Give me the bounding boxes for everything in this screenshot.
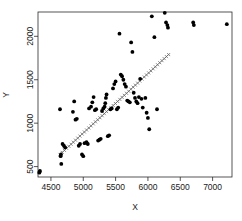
data-point xyxy=(150,14,154,18)
data-point xyxy=(103,101,107,105)
x-axis-title: X xyxy=(132,202,138,212)
data-point xyxy=(99,137,103,141)
data-point xyxy=(192,23,196,27)
data-point xyxy=(133,96,137,100)
data-point xyxy=(116,106,120,110)
y-tick-label: 1500 xyxy=(25,70,35,89)
x-tick-label: 6000 xyxy=(138,182,157,192)
data-point xyxy=(94,107,98,111)
x-tick-label: 5500 xyxy=(106,182,125,192)
plot-canvas: 450050005500600065007000500100015002000 … xyxy=(0,0,242,221)
data-point xyxy=(118,32,122,36)
data-point xyxy=(120,74,124,78)
data-point xyxy=(132,91,136,95)
data-point xyxy=(105,93,109,97)
fit-line-group xyxy=(58,53,170,156)
data-point xyxy=(146,116,150,120)
data-point xyxy=(92,95,96,99)
data-point xyxy=(107,133,111,137)
data-point xyxy=(145,111,149,115)
data-point xyxy=(163,11,167,15)
y-axis-title: Y xyxy=(1,92,11,98)
fit-line-x-marker xyxy=(167,53,170,56)
data-point xyxy=(103,105,107,109)
data-point xyxy=(136,101,140,105)
data-point xyxy=(78,142,82,146)
data-point xyxy=(155,107,159,111)
data-point xyxy=(104,96,108,100)
data-point xyxy=(225,22,229,26)
data-point xyxy=(72,100,76,104)
data-point xyxy=(111,87,115,91)
data-point xyxy=(59,162,63,166)
data-point xyxy=(89,105,93,109)
tick-labels-group: 450050005500600065007000500100015002000 xyxy=(25,27,222,192)
data-point xyxy=(131,50,135,54)
x-tick-label: 6500 xyxy=(171,182,190,192)
axes-group xyxy=(38,12,232,177)
x-tick-label: 5000 xyxy=(74,182,93,192)
plot-frame xyxy=(38,12,232,177)
data-point xyxy=(128,100,132,104)
data-point xyxy=(86,142,90,146)
data-point xyxy=(38,169,42,173)
data-point xyxy=(121,78,125,82)
data-point xyxy=(90,100,94,104)
y-tick-label: 500 xyxy=(25,159,35,173)
data-point xyxy=(124,85,128,89)
x-tick-label: 4500 xyxy=(41,182,60,192)
data-point xyxy=(71,110,75,114)
data-point xyxy=(143,96,147,100)
scatter-plot-figure: 450050005500600065007000500100015002000 … xyxy=(0,0,242,221)
data-point xyxy=(114,80,118,84)
data-point xyxy=(63,146,67,150)
data-point xyxy=(138,77,142,81)
x-tick-label: 7000 xyxy=(203,182,222,192)
data-point xyxy=(58,107,62,111)
data-point xyxy=(81,154,85,158)
y-tick-label: 2000 xyxy=(25,27,35,46)
data-point xyxy=(110,106,114,110)
data-point xyxy=(147,127,151,131)
y-tick-label: 1000 xyxy=(25,113,35,132)
data-point xyxy=(129,40,133,44)
data-point xyxy=(59,153,63,157)
data-points-group xyxy=(37,11,228,175)
data-point xyxy=(141,106,145,110)
data-point xyxy=(166,26,170,30)
data-point xyxy=(75,117,79,121)
data-point xyxy=(153,35,157,39)
data-point xyxy=(140,97,144,101)
